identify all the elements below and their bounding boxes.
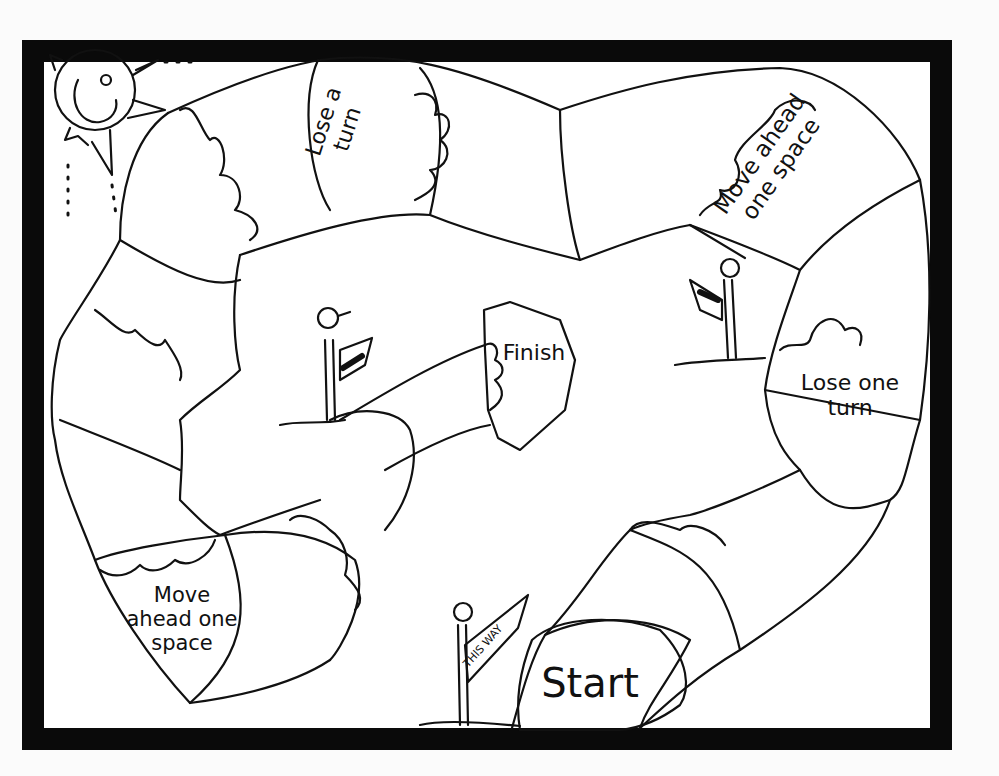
space-finish: Finish xyxy=(494,340,574,365)
game-board: THIS WAY Lose a turn Move ahead one spac… xyxy=(0,0,999,776)
space-label: Lose one xyxy=(790,370,910,395)
space-label: turn xyxy=(790,395,910,420)
space-lose-one-turn: Lose one turn xyxy=(790,370,910,421)
space-start: Start xyxy=(530,660,650,706)
space-label: space xyxy=(112,631,252,655)
space-move-ahead-bottom: Move ahead one space xyxy=(112,583,252,655)
space-label: Move xyxy=(112,583,252,607)
space-label: ahead one xyxy=(112,607,252,631)
